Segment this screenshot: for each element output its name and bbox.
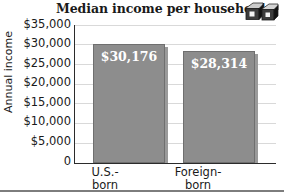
gridline-35000 [75, 25, 276, 26]
chart-title: Median income per household [56, 1, 242, 17]
y-tick-label-5000: $5,000 [11, 135, 71, 148]
x-category-label-us-born: U.S.- born [75, 166, 135, 192]
y-tick-label-15000: $15,000 [11, 96, 71, 109]
y-tick-label-20000: $20,000 [11, 76, 71, 89]
houses-icon [245, 0, 279, 22]
y-tick-label-30000: $30,000 [11, 37, 71, 50]
y-tick-label-25000: $25,000 [11, 57, 71, 70]
y-tick-label-35000: $35,000 [11, 18, 71, 31]
plot-area: $30,176 $28,314 [74, 25, 276, 164]
bar-value-us-born: $30,176 [94, 49, 164, 64]
y-tick-label-0: 0 [11, 155, 71, 168]
bottom-rule [0, 190, 284, 192]
bar-value-foreign-born: $28,314 [184, 56, 254, 71]
median-income-bar-chart: Median income per household Annual incom… [0, 0, 284, 192]
bar-us-born[interactable]: $30,176 [93, 44, 165, 163]
y-tick-label-10000: $10,000 [11, 115, 71, 128]
bar-foreign-born[interactable]: $28,314 [183, 51, 255, 163]
x-category-label-foreign-born: Foreign- born [165, 166, 231, 192]
